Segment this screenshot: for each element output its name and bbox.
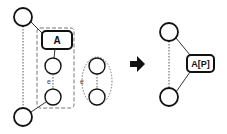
outer-node-top	[14, 8, 32, 26]
outer-node-bottom	[14, 108, 32, 126]
separate-pair: e	[80, 57, 112, 105]
right-arrow-icon	[130, 56, 145, 72]
edge-label-e: e	[47, 78, 51, 85]
inner-node-2	[45, 89, 61, 105]
right-node-bottom	[160, 88, 178, 106]
left-graph: A e	[14, 8, 74, 126]
node-box-a-label: A	[53, 35, 60, 46]
node-box-ap-label: A[P]	[191, 59, 210, 69]
inner-node-1	[45, 58, 61, 74]
pair-edge-label-e: e	[80, 78, 84, 85]
pair-node-1	[89, 58, 105, 74]
transformation-diagram: A e e A[P]	[0, 0, 227, 134]
edge-bottom-to-inner	[31, 102, 46, 112]
edge-box-to-inner	[54, 49, 55, 58]
right-graph: A[P]	[160, 23, 214, 106]
right-node-top	[160, 23, 178, 41]
edge-bottom-to-ap	[176, 72, 190, 92]
edge-top-to-ap	[176, 38, 190, 55]
pair-node-2	[89, 89, 105, 105]
